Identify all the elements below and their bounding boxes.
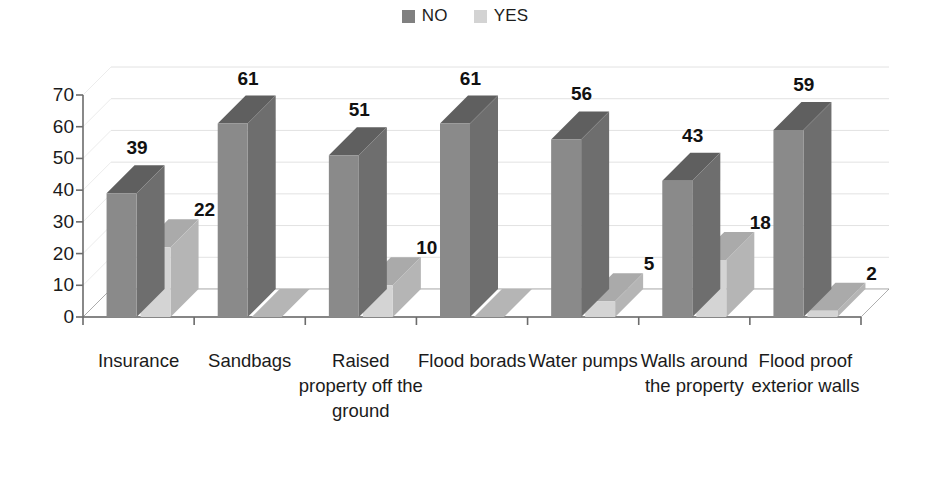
- value-label-no-3: 61: [460, 68, 481, 90]
- x-axis-category-label-6: Flood proof exterior walls: [741, 348, 870, 398]
- value-label-no-4: 56: [571, 83, 592, 105]
- y-axis-tick-label: 40: [30, 179, 74, 201]
- chart-root: NO YES 706050403020100 InsuranceSandbags…: [0, 0, 930, 482]
- y-axis-tick-label: 0: [30, 306, 74, 328]
- x-axis-category-label-4: Water pumps: [519, 348, 648, 373]
- legend-square-icon: [402, 10, 415, 23]
- value-label-no-6: 59: [793, 74, 814, 96]
- y-axis-tick-label: 30: [30, 211, 74, 233]
- value-label-yes-6: 2: [866, 263, 877, 285]
- value-label-yes-0: 22: [194, 199, 215, 221]
- legend-item-no[interactable]: NO: [402, 6, 448, 26]
- x-axis-category-label-2: Raised property off the ground: [296, 348, 425, 423]
- legend-item-yes[interactable]: YES: [474, 6, 529, 26]
- legend-square-icon: [474, 10, 487, 23]
- x-axis-category-label-0: Insurance: [74, 348, 203, 373]
- value-label-yes-5: 18: [750, 212, 771, 234]
- value-label-no-0: 39: [126, 137, 147, 159]
- x-axis-labels: InsuranceSandbagsRaised property off the…: [0, 348, 930, 482]
- x-axis-category-label-5: Walls around the property: [630, 348, 759, 398]
- y-axis-tick-label: 70: [30, 84, 74, 106]
- y-axis-tick-label: 20: [30, 243, 74, 265]
- y-axis-tick-label: 50: [30, 147, 74, 169]
- y-axis-tick-label: 60: [30, 116, 74, 138]
- chart-legend: NO YES: [0, 6, 930, 26]
- value-label-yes-4: 5: [644, 253, 655, 275]
- legend-label-no: NO: [422, 6, 448, 26]
- value-label-no-2: 51: [349, 99, 370, 121]
- y-axis-tick-label: 10: [30, 274, 74, 296]
- value-label-no-1: 61: [238, 68, 259, 90]
- value-label-yes-2: 10: [416, 237, 437, 259]
- value-label-no-5: 43: [682, 125, 703, 147]
- legend-label-yes: YES: [494, 6, 529, 26]
- x-axis-category-label-1: Sandbags: [185, 348, 314, 373]
- x-axis-category-label-3: Flood borads: [407, 348, 536, 373]
